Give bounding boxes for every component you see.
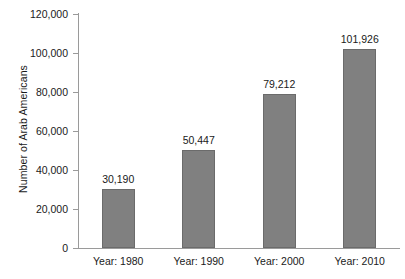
bar-value-label: 101,926 <box>320 34 400 45</box>
bar-value-label: 79,212 <box>239 79 319 90</box>
y-tick-label: 40,000 <box>36 165 68 175</box>
y-tick-mark <box>73 248 78 249</box>
x-axis-category-label: Year: 1980 <box>73 256 163 267</box>
x-axis-category-label: Year: 2000 <box>234 256 324 267</box>
bar <box>182 150 215 248</box>
y-tick-label: 60,000 <box>36 126 68 136</box>
x-axis-category-label: Year: 2010 <box>315 256 405 267</box>
y-tick-label: 120,000 <box>30 9 68 19</box>
x-axis-category-label: Year: 1990 <box>154 256 244 267</box>
x-axis-line <box>78 248 400 249</box>
y-tick-label: 0 <box>62 243 68 253</box>
bar-value-label: 50,447 <box>159 135 239 146</box>
bar-value-label: 30,190 <box>78 174 158 185</box>
bar-chart: Number of Arab Americans 020,00040,00060… <box>0 0 405 279</box>
plot-area: 30,19050,44779,212101,926 <box>78 14 400 248</box>
bar <box>263 94 296 248</box>
y-axis-title: Number of Arab Americans <box>17 29 29 229</box>
bar <box>343 49 376 248</box>
y-tick-label: 80,000 <box>36 87 68 97</box>
y-tick-label: 20,000 <box>36 204 68 214</box>
bar <box>102 189 135 248</box>
y-tick-label: 100,000 <box>30 48 68 58</box>
